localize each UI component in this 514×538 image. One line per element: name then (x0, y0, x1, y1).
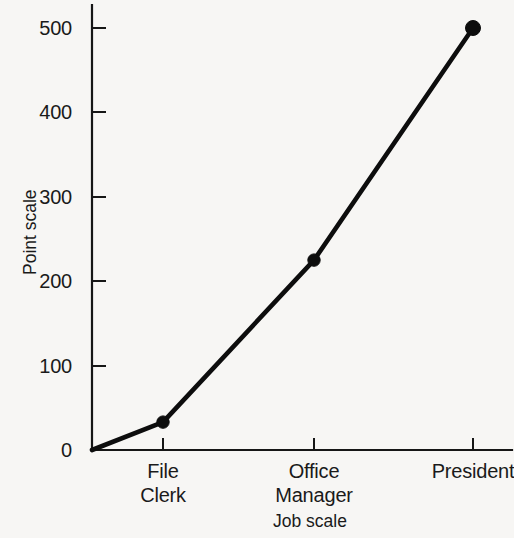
data-point-marker (157, 416, 169, 428)
data-point-markers (157, 21, 481, 429)
line-chart-figure: 500 400 300 200 100 0 File Clerk Office … (0, 0, 514, 538)
x-tick-label-office-manager-line2: Manager (275, 483, 353, 507)
x-tick-label-president-line1: President (432, 459, 514, 483)
x-tick-label-office-manager: Office Manager (275, 459, 353, 508)
data-series-line (92, 28, 473, 450)
data-point-marker (308, 254, 320, 266)
x-tick-label-file-clerk: File Clerk (140, 459, 186, 508)
y-tick-label-400: 400 (20, 102, 72, 122)
x-tick-label-file-clerk-line2: Clerk (140, 483, 186, 507)
y-axis-ticks (92, 28, 106, 366)
x-tick-label-file-clerk-line1: File (140, 459, 186, 483)
y-tick-label-500: 500 (20, 18, 72, 38)
y-tick-label-100: 100 (20, 356, 72, 376)
data-point-marker (466, 21, 481, 36)
x-tick-label-president: President (432, 459, 514, 483)
x-tick-label-office-manager-line1: Office (275, 459, 353, 483)
x-axis-ticks (163, 438, 473, 450)
x-axis-title: Job scale (273, 513, 347, 531)
y-axis-title: Point scale (22, 189, 40, 275)
plot-area (0, 0, 514, 538)
y-tick-label-0: 0 (20, 440, 72, 460)
